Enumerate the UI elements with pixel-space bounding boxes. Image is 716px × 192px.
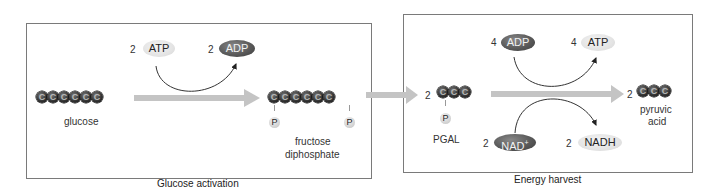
carbon-atom: C	[659, 85, 671, 97]
carbon-atom: C	[91, 91, 103, 103]
phosphate-group: P	[269, 117, 280, 128]
carbon-atom: C	[459, 86, 471, 98]
adp-out-count: 2	[208, 44, 214, 55]
pyruvate-count: 2	[627, 89, 633, 100]
pgal-count: 2	[425, 90, 431, 101]
phosphate-bond	[445, 100, 446, 106]
nad-plus-pill: NAD+	[494, 134, 536, 151]
nad-name: NAD	[501, 140, 524, 152]
nadh-out-pill: NADH	[578, 134, 622, 151]
fructose-diphosphate-carbon-chain: C C C C C C	[268, 91, 334, 103]
carbon-atom: C	[323, 91, 335, 103]
arrows-layer	[0, 0, 716, 192]
nad-in-count: 2	[483, 138, 489, 149]
pgal-carbon-chain: C C C	[437, 86, 470, 98]
adp-in-pill: ADP	[501, 34, 535, 51]
main-arrow-glucose-to-fbp	[134, 89, 260, 107]
curve-atp-to-adp	[156, 64, 236, 91]
adp-in-count: 4	[491, 37, 497, 48]
atp-out-count: 4	[571, 37, 577, 48]
pyruvic-acid-label-line2: acid	[648, 116, 666, 128]
atp-in-pill: ATP	[143, 40, 175, 57]
main-arrow-fbp-to-pgal	[366, 86, 418, 104]
main-arrow-pgal-to-pyruvate	[491, 85, 624, 103]
atp-in-count: 2	[130, 44, 136, 55]
adp-out-pill: ADP	[219, 40, 255, 57]
phosphate-group: P	[344, 117, 355, 128]
phosphate-bond	[274, 105, 275, 111]
pyruvic-acid-label-line1: pyruvic	[640, 104, 672, 116]
curve-nad-to-nadh	[515, 99, 596, 133]
pgal-label: PGAL	[433, 134, 460, 146]
pyruvic-acid-carbon-chain: C C C	[637, 85, 670, 97]
glucose-carbon-chain: C C C C C C	[36, 91, 102, 103]
nadh-out-count: 2	[566, 138, 572, 149]
curve-adp-to-atp	[514, 57, 596, 86]
fructose-diphosphate-label-line2: diphosphate	[285, 149, 340, 161]
atp-out-pill: ATP	[581, 34, 615, 51]
fructose-diphosphate-label-line1: fructose	[295, 136, 331, 148]
phosphate-group: P	[440, 113, 451, 124]
glucose-label: glucose	[64, 116, 98, 128]
phosphate-bond	[349, 105, 350, 111]
nad-charge: +	[525, 139, 529, 146]
